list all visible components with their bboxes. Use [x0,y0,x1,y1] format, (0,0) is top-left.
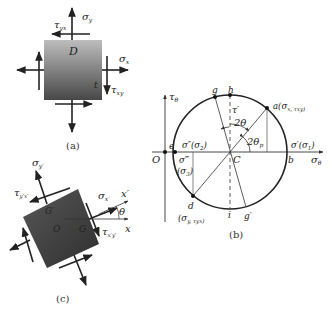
point-a-label: a(σx, τxy) [273,101,305,113]
arc-2theta-left [221,127,229,129]
point-t-label: t [94,80,98,90]
x-prime-axis-label: x′ [121,188,130,199]
point-d [191,194,195,198]
point-o [163,150,167,154]
point-g [213,95,217,99]
tau-xy-prime-label: τx′y′ [102,226,117,239]
caption-b: (b) [229,229,243,240]
sigma-prime-s1-label: σ′(σ1) [291,140,315,151]
point-g-label: G [79,224,86,234]
point-d-coords: (σy, τyx) [178,213,204,225]
x-axis-label: x [125,223,131,234]
point-d-label: D [68,45,78,58]
point-o-label: O [53,224,61,234]
tau-axis-label: τθ [169,91,179,103]
sigma-s3-label: (σ3) [177,166,193,177]
tau-yx-label: τyx [54,19,67,32]
angle-2theta-p-label: 2θp [246,136,263,149]
sigma-y-label: σy [82,11,93,24]
tau-yx-prime-label: τy′x′ [14,187,29,200]
caption-a: (a) [66,140,80,151]
sigma-axis-label: σθ [311,154,322,166]
theta-label: θ [119,206,125,217]
sigma-x-prime-label: σx′ [98,190,110,202]
point-g-label: g [212,85,218,95]
point-e-label: e [169,141,174,151]
tau-prime-label: τ′ [232,105,239,115]
sigma-tprime-label: σ‴ [179,155,190,165]
figure-canvas: σy τyx D t σx τxy (a) τθ σθ [0,0,331,310]
panel-c: σy′ τy′x′ σx′ τx′y′ x′ x θ G′ O G (c) [10,157,131,304]
sigma-x-prime-arrow [89,208,117,219]
point-g-prime-label: G′ [45,206,54,216]
point-d-label: d [188,201,194,211]
tau-xy-label: τxy [111,84,124,97]
sigma-dprime-s2-label: σ″(σ2) [182,140,207,151]
point-gprime-label: g′ [244,211,252,221]
origin-label: O [152,154,160,165]
panel-b: τθ σθ O e b C g h i g′ a(σx, τxy) d (σy,… [152,85,323,240]
point-a [265,106,269,110]
caption-c: (c) [56,293,70,304]
center-label: C [233,154,241,165]
panel-a: σy τyx D t σx τxy (a) [17,8,130,151]
sigma-x-label: σx [119,53,130,65]
sigma-y-prime-label: σy′ [32,157,44,170]
point-b-label: b [288,155,294,165]
point-i-label: i [228,210,231,220]
point-h-label: h [228,85,234,95]
angle-2theta-label: 2θ [233,117,246,128]
